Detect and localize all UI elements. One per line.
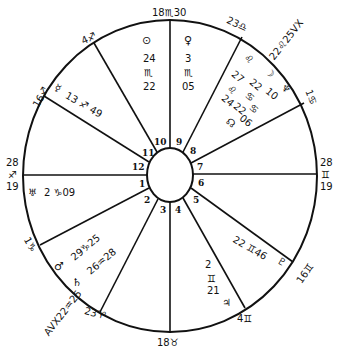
ic-label: 18♉ — [157, 337, 179, 348]
cusp-line-6 — [191, 188, 293, 262]
cusp-9-label: 23♎ — [225, 14, 249, 33]
house-number-1: 1 — [139, 179, 145, 189]
planet-uranus: ♅ 2 ♑09 — [28, 187, 75, 198]
desc-deg-bottom: 19 — [320, 181, 333, 192]
asc-deg-bottom: 19 — [6, 181, 19, 192]
house-number-6: 6 — [198, 178, 204, 188]
venus-minute: 05 — [182, 81, 195, 92]
antivertex-label: AVX22♒25 — [42, 288, 84, 338]
jupiter-glyph: ♃ — [222, 297, 231, 308]
asc-deg-top: 28 — [6, 157, 19, 168]
venus-sign: ♏ — [184, 67, 193, 78]
node-glyph: ☊ — [224, 116, 238, 130]
vertex-label: 22♌25VX — [267, 17, 305, 62]
saturn-glyph: ♄ — [72, 276, 82, 289]
planet-jupiter: 2 ♊ 21 ♃ — [205, 259, 231, 308]
venus-degree: 3 — [185, 53, 191, 64]
house-number-10: 10 — [154, 137, 167, 147]
cusp-3-label: 23♈ — [83, 305, 107, 321]
house-number-12: 12 — [132, 162, 145, 172]
horoscope-wheel: 10 9 8 7 6 5 4 3 2 1 12 11 18♏30 23♎ 1♋ … — [0, 0, 344, 357]
uranus-glyph: ♅ — [28, 187, 37, 198]
house-number-9: 9 — [176, 137, 182, 147]
cusp-6-label: 16♊ — [294, 261, 315, 285]
planet-venus: ♀ 3 ♏ 05 — [182, 34, 195, 92]
house-number-5: 5 — [193, 195, 199, 205]
planet-sun: ⊙ 24 ♏ 22 — [142, 34, 156, 92]
house-8-planets: ♌ ☽ 27 ♌ 22 ♋ 10 ♆ 24 22 ♋ 06 ☊ — [220, 52, 293, 130]
mars-glyph: ♂ — [54, 260, 64, 273]
desc-sign: ♊ — [321, 169, 330, 180]
mc-label: 18♏30 — [152, 7, 186, 18]
pos-10: 10 — [264, 85, 281, 102]
planet-pluto: 22 ♊46 ♇ — [231, 234, 289, 269]
house-number-11: 11 — [142, 148, 155, 158]
cusp-5-label: 4♊ — [237, 313, 252, 324]
house-number-7: 7 — [197, 162, 203, 172]
sun-degree: 24 — [143, 53, 156, 64]
jupiter-minute: 21 — [207, 285, 220, 296]
asc-sign: ♐ — [8, 169, 17, 180]
house-number-4: 4 — [175, 205, 181, 215]
pluto-position: 22 ♊46 — [231, 234, 269, 262]
sun-glyph: ⊙ — [142, 34, 151, 47]
pos-cancer: ♋ — [247, 102, 261, 116]
cusp-line-8 — [191, 103, 304, 163]
uranus-position: 2 ♑09 — [44, 187, 75, 198]
mercury-glyph: ☿ — [53, 82, 64, 95]
neptune-glyph: ♆ — [279, 82, 293, 96]
venus-glyph: ♀ — [184, 34, 192, 47]
h9-leo-glyph: ♌ — [242, 52, 256, 66]
desc-deg-top: 28 — [320, 157, 333, 168]
house-number-8: 8 — [190, 146, 196, 156]
sun-minute: 22 — [143, 81, 156, 92]
planet-mercury: ☿ 13 ♐ 49 — [53, 82, 105, 120]
jupiter-degree: 2 — [205, 259, 211, 270]
sun-sign: ♏ — [144, 67, 153, 78]
house-number-3: 3 — [160, 205, 166, 215]
cusp-8-label: 1♋ — [303, 88, 319, 106]
mercury-position: 13 ♐ 49 — [64, 90, 105, 120]
cusp-2-label: 1♑ — [22, 235, 39, 254]
jupiter-sign: ♊ — [207, 273, 216, 284]
house-number-2: 2 — [144, 195, 150, 205]
